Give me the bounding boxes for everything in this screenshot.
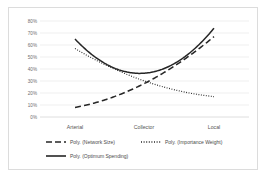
ytick-40: 40%: [28, 67, 37, 72]
ytick-50: 50%: [28, 55, 37, 60]
y-axis-labels: 80% 70% 60% 50% 40% 30% 20% 10% 0%: [28, 19, 37, 120]
series-optimum-spending: [75, 28, 214, 73]
chart-plot-area: 80% 70% 60% 50% 40% 30% 20% 10% 0% Arter…: [9, 8, 259, 171]
series-network-size: [75, 37, 214, 108]
ytick-70: 70%: [28, 31, 37, 36]
ytick-80: 80%: [28, 19, 37, 24]
gridlines: [40, 21, 249, 117]
ytick-10: 10%: [28, 103, 37, 108]
chart-legend: Poly. (Network Size) Poly. (Importance W…: [46, 139, 223, 159]
xtick-local: Local: [208, 124, 220, 130]
xtick-arterial: Arterial: [67, 124, 83, 130]
chart-panel: 80% 70% 60% 50% 40% 30% 20% 10% 0% Arter…: [8, 7, 258, 170]
ytick-60: 60%: [28, 43, 37, 48]
ytick-30: 30%: [28, 79, 37, 84]
legend-label-optimum-spending[interactable]: Poly. (Optimum Spending): [70, 153, 129, 159]
ytick-20: 20%: [28, 91, 37, 96]
x-axis-labels: Arterial Collector Local: [67, 124, 220, 130]
legend-label-network-size[interactable]: Poly. (Network Size): [70, 139, 115, 145]
ytick-0: 0%: [30, 115, 37, 120]
xtick-collector: Collector: [134, 124, 155, 130]
legend-label-importance-weight[interactable]: Poly. (Importance Weight): [165, 139, 223, 145]
data-series-group: [75, 28, 214, 107]
